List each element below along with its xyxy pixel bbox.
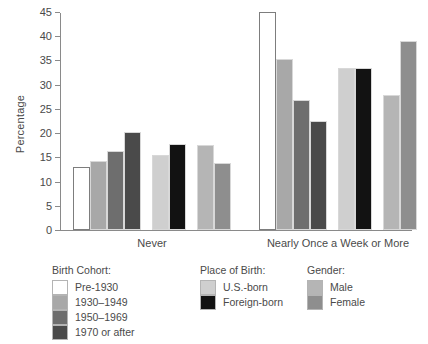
chart-legend: Birth Cohort: Pre-19301930–19491950–1969… [52, 264, 422, 338]
legend-gender-label: Male [330, 282, 353, 293]
legend-birth-cohort-label: 1970 or after [75, 327, 135, 338]
legend-title-place-of-birth: Place of Birth: [200, 264, 283, 276]
bar-never-u-s-born [152, 155, 169, 230]
y-tick-45 [55, 12, 60, 13]
bar-never-foreign-born [169, 144, 186, 230]
y-tick-label-10: 10 [40, 176, 52, 187]
legend-title-gender: Gender: [307, 264, 365, 276]
legend-birth-cohort-label: 1930–1949 [75, 297, 128, 308]
legend-place-of-birth-label: Foreign-born [223, 297, 283, 308]
bar-nearly-once-a-week-or-more-female [400, 41, 417, 230]
legend-place-of-birth-item[interactable]: Foreign-born [200, 295, 283, 310]
y-tick-label-35: 35 [40, 55, 52, 66]
y-tick-label-20: 20 [40, 128, 52, 139]
bar-chart: Percentage 051015202530354045 NeverNearl… [0, 0, 428, 344]
bar-never-pre-1930 [73, 167, 90, 230]
legend-group-birth-cohort: Birth Cohort: Pre-19301930–19491950–1969… [52, 264, 135, 340]
y-tick-5 [55, 206, 60, 207]
bar-never-female [214, 163, 231, 230]
y-tick-15 [55, 157, 60, 158]
legend-birth-cohort-label: 1950–1969 [75, 312, 128, 323]
legend-place-of-birth-label: U.S.-born [223, 282, 268, 293]
legend-place-of-birth-swatch-icon [200, 280, 216, 295]
bar-nearly-once-a-week-or-more-pre-1930 [259, 12, 276, 230]
legend-gender-item[interactable]: Male [307, 280, 365, 295]
bar-nearly-once-a-week-or-more-foreign-born [355, 68, 372, 230]
legend-gender-item[interactable]: Female [307, 295, 365, 310]
legend-place-of-birth-item[interactable]: U.S.-born [200, 280, 283, 295]
y-tick-10 [55, 182, 60, 183]
legend-birth-cohort-item[interactable]: 1950–1969 [52, 310, 135, 325]
bar-never-1950-1969 [107, 151, 124, 230]
y-tick-25 [55, 109, 60, 110]
legend-birth-cohort-swatch-icon [52, 295, 68, 310]
legend-title-birth-cohort: Birth Cohort: [52, 264, 135, 276]
y-tick-0 [55, 230, 60, 231]
legend-birth-cohort-swatch-icon [52, 310, 68, 325]
y-tick-40 [55, 36, 60, 37]
y-tick-label-30: 30 [40, 79, 52, 90]
y-axis-line [60, 13, 61, 231]
legend-group-gender: Gender: MaleFemale [307, 264, 365, 310]
x-axis-label-0: Never [137, 237, 166, 249]
y-tick-20 [55, 133, 60, 134]
y-tick-label-40: 40 [40, 31, 52, 42]
legend-group-place-of-birth: Place of Birth: U.S.-bornForeign-born [200, 264, 283, 310]
legend-gender-swatch-icon [307, 280, 323, 295]
legend-gender-swatch-icon [307, 295, 323, 310]
legend-birth-cohort-label: Pre-1930 [75, 282, 118, 293]
bar-nearly-once-a-week-or-more-1930-1949 [276, 59, 293, 230]
y-tick-35 [55, 60, 60, 61]
x-axis-label-1: Nearly Once a Week or More [267, 237, 409, 249]
bar-never-male [197, 145, 214, 230]
y-tick-label-45: 45 [40, 7, 52, 18]
bar-nearly-once-a-week-or-more-male [383, 95, 400, 230]
bar-nearly-once-a-week-or-more-1970-or-after [310, 121, 327, 230]
legend-place-of-birth-swatch-icon [200, 295, 216, 310]
y-tick-label-15: 15 [40, 152, 52, 163]
legend-birth-cohort-item[interactable]: Pre-1930 [52, 280, 135, 295]
plot-area: 051015202530354045 [60, 8, 412, 231]
bar-nearly-once-a-week-or-more-u-s-born [338, 68, 355, 230]
y-tick-label-0: 0 [46, 225, 52, 236]
y-tick-30 [55, 85, 60, 86]
legend-birth-cohort-item[interactable]: 1930–1949 [52, 295, 135, 310]
bar-nearly-once-a-week-or-more-1950-1969 [293, 100, 310, 230]
legend-birth-cohort-swatch-icon [52, 325, 68, 340]
y-tick-label-25: 25 [40, 103, 52, 114]
x-axis-line [60, 230, 412, 231]
legend-birth-cohort-swatch-icon [52, 280, 68, 295]
y-axis-title: Percentage [14, 69, 26, 179]
bar-never-1930-1949 [90, 161, 107, 230]
bar-never-1970-or-after [124, 132, 141, 230]
legend-birth-cohort-item[interactable]: 1970 or after [52, 325, 135, 340]
y-tick-label-5: 5 [46, 200, 52, 211]
legend-gender-label: Female [330, 297, 365, 308]
